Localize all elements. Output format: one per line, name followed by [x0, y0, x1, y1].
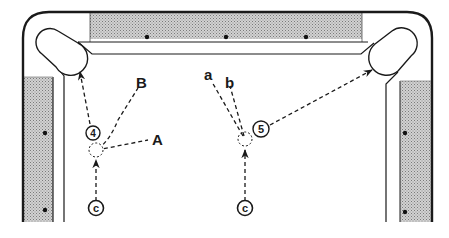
top-rail	[90, 13, 362, 39]
cue-ball-right-label: c	[242, 202, 248, 214]
diamond-marker	[145, 35, 149, 39]
corner-pocket-left	[36, 28, 88, 75]
cue-ball-left-label: c	[93, 202, 99, 214]
cue-ball-right: c	[238, 201, 253, 216]
left-cushion	[56, 66, 64, 222]
right-rail	[400, 81, 431, 222]
ball-4-number: 4	[90, 128, 96, 139]
top-cushion	[78, 42, 374, 54]
diamond-marker	[304, 35, 308, 39]
ball-5-number: 5	[258, 123, 264, 135]
ghost-ball-left	[89, 143, 103, 157]
pool-table-diagram: 4 5 c c A B a b	[0, 0, 449, 238]
corner-pocket-right	[369, 28, 417, 75]
aim-line-B	[98, 88, 138, 149]
table-outer-frame	[23, 12, 432, 222]
label-b: b	[225, 74, 234, 91]
right-cushion	[386, 72, 398, 222]
ball-5: 5	[253, 121, 269, 137]
label-A: A	[152, 131, 163, 148]
ghost-ball-right	[238, 132, 252, 146]
left-rail	[23, 77, 53, 222]
ball-4: 4	[86, 126, 100, 140]
diamond-marker	[403, 210, 407, 214]
right-shot-paths	[212, 70, 372, 201]
aim-line-b	[230, 86, 244, 136]
cue-ball-left: c	[89, 201, 104, 216]
ball-4-path	[80, 72, 90, 124]
label-a: a	[204, 66, 213, 83]
label-B: B	[136, 74, 147, 91]
aim-line-A	[97, 140, 148, 150]
diamond-marker	[43, 131, 47, 135]
diamond-marker	[43, 208, 47, 212]
ball-5-path	[270, 70, 372, 125]
diamond-marker	[403, 131, 407, 135]
diamond-marker	[224, 35, 228, 39]
